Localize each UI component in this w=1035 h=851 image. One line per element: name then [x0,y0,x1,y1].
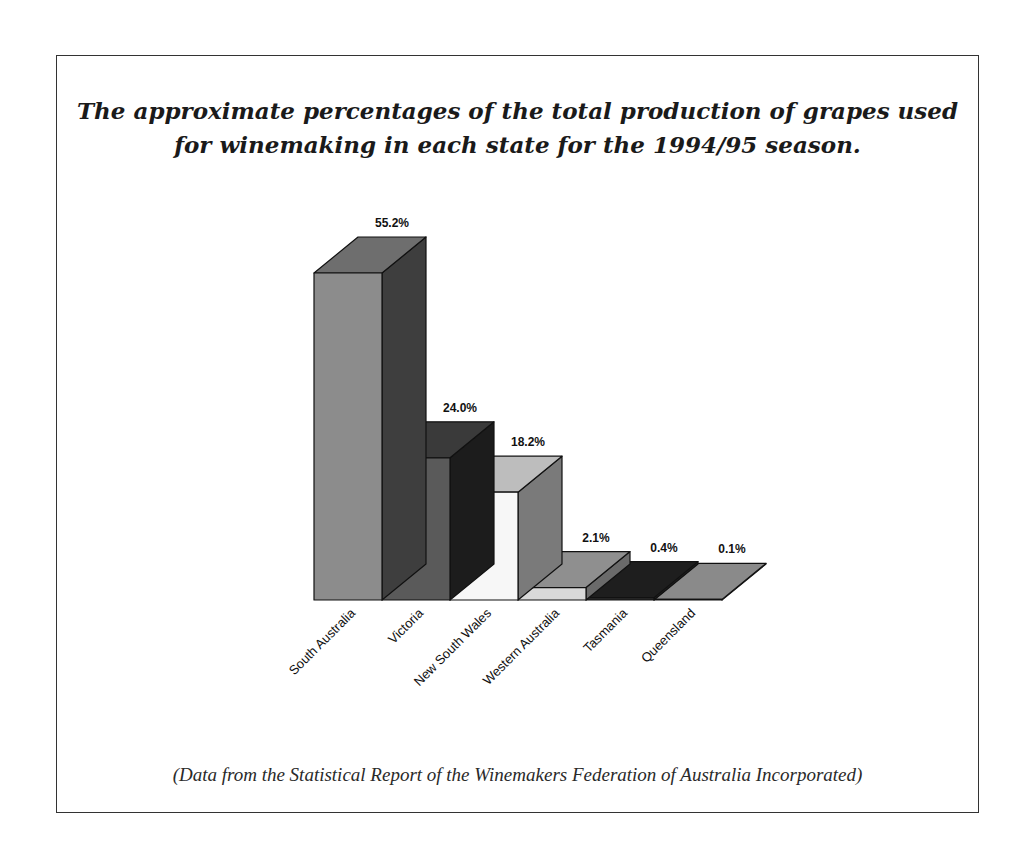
category-label: Victoria [385,605,427,647]
bar-queensland: 0.1%Queensland [638,542,766,665]
category-label: Queensland [638,606,698,666]
bar-front-face [654,599,722,600]
bar-value-label: 0.1% [718,542,746,556]
bar-side-face [382,237,426,600]
bar-value-label: 2.1% [582,531,610,545]
bar-value-label: 18.2% [511,435,545,449]
bar-south-australia: 55.2%South Australia [286,216,426,678]
bar-value-label: 0.4% [650,541,678,555]
bar-chart-3d: 0.1%Queensland0.4%Tasmania2.1%Western Au… [0,0,1035,851]
bar-front-face [314,273,382,600]
bar-value-label: 55.2% [375,216,409,230]
bar-value-label: 24.0% [443,401,477,415]
category-label: Tasmania [580,605,630,655]
bar-front-face [586,598,654,600]
category-label: South Australia [286,605,359,678]
